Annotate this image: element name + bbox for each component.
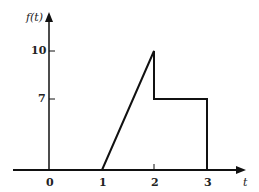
y-tick-7: 7 <box>38 92 46 105</box>
y-axis-arrow-icon <box>45 12 53 22</box>
x-tick-0: 0 <box>46 176 54 189</box>
x-tick-1: 1 <box>99 176 107 189</box>
x-axis-arrow-icon <box>236 166 246 174</box>
function-curve <box>102 51 207 170</box>
x-tick-2: 2 <box>151 176 159 189</box>
x-axis-label: t <box>243 176 247 189</box>
y-axis-label: f(t) <box>26 11 43 24</box>
y-tick-10: 10 <box>31 44 46 57</box>
x-tick-3: 3 <box>204 176 212 189</box>
